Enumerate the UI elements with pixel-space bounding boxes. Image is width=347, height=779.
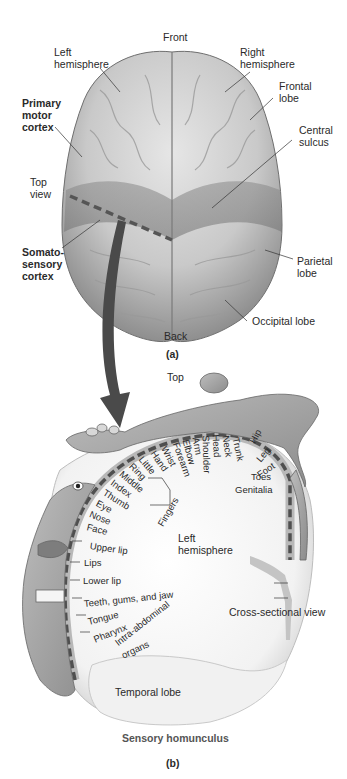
label-right-hemisphere: Right hemisphere [240, 46, 295, 70]
label-central-sulcus: Central sulcus [299, 124, 333, 148]
label-cross-sectional-view: Cross-sectional view [229, 606, 325, 618]
arc-label-head: Head [211, 434, 224, 457]
label-back: Back [164, 330, 187, 342]
label-left-hemisphere: Left hemisphere [54, 46, 109, 70]
label-left-hemisphere-b: Left hemisphere [178, 532, 233, 556]
label-toes: Toes [251, 471, 271, 483]
label-genitalia: Genitalia [235, 484, 273, 496]
label-top: Top [167, 371, 184, 383]
label-front: Front [163, 31, 188, 43]
label-occipital-lobe: Occipital lobe [252, 315, 315, 327]
label-temporal-lobe: Temporal lobe [115, 686, 181, 698]
label-lower-lip: Lower lip [83, 575, 121, 587]
label-parietal-lobe: Parietal lobe [297, 255, 333, 279]
label-lips: Lips [84, 557, 101, 569]
label-top-view: Top view [30, 176, 51, 200]
label-somatosensory-cortex: Somato- sensory cortex [22, 246, 64, 282]
title-sensory-homunculus: Sensory homunculus [122, 732, 229, 744]
brain-top-view [62, 51, 282, 341]
label-frontal-lobe: Frontal lobe [279, 80, 312, 104]
caption-a: (a) [166, 348, 179, 360]
caption-b: (b) [166, 757, 179, 769]
label-primary-motor-cortex: Primary motor cortex [22, 97, 61, 133]
